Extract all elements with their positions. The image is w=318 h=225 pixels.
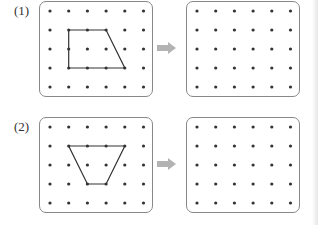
- grid-dot: [252, 85, 255, 88]
- grid-dot: [195, 28, 198, 31]
- grid-dot: [233, 28, 236, 31]
- grid-dot: [252, 201, 255, 204]
- grid-dot: [214, 201, 217, 204]
- grid-dot: [289, 201, 292, 204]
- grid-dot: [214, 144, 217, 147]
- dot-grid: [187, 118, 301, 214]
- problem-1-label: (1): [14, 3, 29, 19]
- grid-dot: [289, 163, 292, 166]
- grid-dot: [195, 85, 198, 88]
- grid-dot: [233, 163, 236, 166]
- dot-grid: [40, 2, 154, 98]
- grid-dot: [289, 47, 292, 50]
- grid-dot: [233, 85, 236, 88]
- grid-dot: [142, 85, 145, 88]
- grid-dot: [289, 85, 292, 88]
- grid-dot: [48, 182, 51, 185]
- grid-dot: [289, 66, 292, 69]
- problem-2-label: (2): [14, 119, 29, 135]
- grid-dot: [86, 201, 89, 204]
- grid-dot: [105, 66, 108, 69]
- grid-dot: [233, 201, 236, 204]
- grid-dot: [142, 144, 145, 147]
- grid-dot: [252, 182, 255, 185]
- problem-1-target-board[interactable]: [186, 1, 300, 97]
- grid-dot: [289, 28, 292, 31]
- grid-dot: [195, 163, 198, 166]
- grid-dot: [214, 125, 217, 128]
- grid-dot: [214, 28, 217, 31]
- grid-dot: [214, 163, 217, 166]
- grid-dot: [233, 182, 236, 185]
- grid-dot: [48, 144, 51, 147]
- grid-dot: [270, 47, 273, 50]
- grid-dot: [252, 47, 255, 50]
- grid-dot: [252, 125, 255, 128]
- grid-dot: [270, 182, 273, 185]
- grid-dot: [123, 85, 126, 88]
- grid-dot: [86, 144, 89, 147]
- grid-dot: [67, 125, 70, 128]
- grid-dot: [270, 144, 273, 147]
- grid-dot: [142, 125, 145, 128]
- grid-dot: [123, 163, 126, 166]
- grid-dot: [270, 28, 273, 31]
- grid-dot: [123, 144, 126, 147]
- grid-dot: [67, 66, 70, 69]
- grid-dot: [142, 201, 145, 204]
- grid-dot: [123, 47, 126, 50]
- grid-dot: [86, 9, 89, 12]
- grid-dot: [123, 66, 126, 69]
- grid-dot: [270, 201, 273, 204]
- trapezoid-shape: [69, 30, 125, 68]
- grid-dot: [289, 125, 292, 128]
- grid-dot: [105, 28, 108, 31]
- grid-dot: [270, 66, 273, 69]
- grid-dot: [142, 163, 145, 166]
- grid-dot: [252, 28, 255, 31]
- grid-dot: [105, 163, 108, 166]
- grid-dot: [105, 125, 108, 128]
- page-edge-shadow: [312, 0, 318, 225]
- grid-dot: [142, 182, 145, 185]
- grid-dot: [105, 85, 108, 88]
- grid-dot: [67, 163, 70, 166]
- grid-dot: [289, 182, 292, 185]
- grid-dot: [233, 66, 236, 69]
- grid-dot: [86, 28, 89, 31]
- grid-dot: [48, 201, 51, 204]
- grid-dot: [195, 201, 198, 204]
- grid-dot: [195, 47, 198, 50]
- grid-dot: [86, 125, 89, 128]
- grid-dot: [270, 163, 273, 166]
- grid-dot: [48, 28, 51, 31]
- grid-dot: [270, 125, 273, 128]
- grid-dot: [142, 47, 145, 50]
- grid-dot: [67, 85, 70, 88]
- grid-dot: [123, 125, 126, 128]
- grid-dot: [48, 125, 51, 128]
- right-arrow-icon: [157, 158, 177, 170]
- problem-2-target-board[interactable]: [186, 117, 300, 213]
- grid-dot: [86, 47, 89, 50]
- grid-dot: [105, 182, 108, 185]
- problem-2-source-board: [39, 117, 153, 213]
- grid-dot: [48, 47, 51, 50]
- right-arrow-icon: [157, 42, 177, 54]
- grid-dot: [195, 66, 198, 69]
- grid-dot: [214, 182, 217, 185]
- grid-dot: [105, 47, 108, 50]
- grid-dot: [86, 85, 89, 88]
- grid-dot: [123, 182, 126, 185]
- grid-dot: [67, 144, 70, 147]
- grid-dot: [233, 9, 236, 12]
- grid-dot: [252, 144, 255, 147]
- grid-dot: [233, 47, 236, 50]
- grid-dot: [105, 201, 108, 204]
- grid-dot: [252, 66, 255, 69]
- dot-grid: [187, 2, 301, 98]
- grid-dot: [289, 9, 292, 12]
- grid-dot: [48, 163, 51, 166]
- grid-dot: [48, 85, 51, 88]
- grid-dot: [123, 28, 126, 31]
